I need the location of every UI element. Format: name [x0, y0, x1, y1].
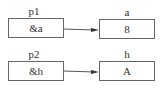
- arrows-layer: [0, 0, 165, 91]
- arrow-p2-to-h: [64, 70, 99, 74]
- arrow-p1-to-a: [64, 28, 99, 32]
